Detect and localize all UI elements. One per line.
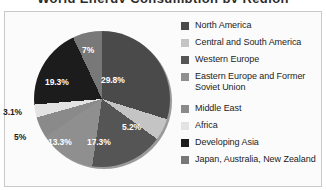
chart-title-clipped: World Energy Consumption by Region [0,0,326,3]
legend-swatch-icon [181,105,189,113]
legend-item-africa: Africa [181,120,326,131]
pie-chart-figure: World Energy Consumption by Region 29.8%… [0,0,326,190]
legend-swatch-icon [181,139,189,147]
slice-label-middle-east: 5% [14,132,26,142]
legend-item-western-europe: Western Europe [181,54,326,65]
legend-label: Africa [195,120,218,131]
legend-label: North America [195,20,251,31]
legend-label: Western Europe [195,54,259,65]
slice-label-developing-asia: 19.3% [45,77,69,87]
slice-label-japan-australia-nz: 7% [82,45,94,55]
legend-item-central-and-south-america: Central and South America [181,37,326,48]
pie-plot-area: 29.8% 5.2% 17.3% 13.3% 5% 3.1% 19.3% 7% [5,12,183,188]
slice-label-north-america: 29.8% [101,75,125,85]
legend-label: Developing Asia [195,137,259,148]
legend-label: Eastern Europe and Former Soviet Union [195,71,323,92]
legend-label: Central and South America [195,37,301,48]
legend-item-japan-australia-new-zealand: Japan, Australia, New Zealand [181,154,326,165]
legend-label: Japan, Australia, New Zealand [195,154,316,165]
slice-label-central-south-america: 5.2% [122,122,141,132]
legend-item-eastern-europe-and-former-soviet-union: Eastern Europe and Former Soviet Union [181,71,326,92]
legend-item-middle-east: Middle East [181,103,326,114]
legend-swatch-icon [181,73,189,81]
legend-item-north-america: North America [181,20,326,31]
chart-frame: 29.8% 5.2% 17.3% 13.3% 5% 3.1% 19.3% 7% … [4,11,322,187]
legend-swatch-icon [181,156,189,164]
slice-label-africa: 3.1% [3,107,22,117]
legend-item-developing-asia: Developing Asia [181,137,326,148]
chart-legend: North America Central and South America … [181,20,326,171]
legend-swatch-icon [181,39,189,47]
slice-label-western-europe: 17.3% [87,137,111,147]
slice-label-eastern-europe: 13.3% [48,137,72,147]
legend-label: Middle East [195,103,241,114]
legend-swatch-icon [181,56,189,64]
legend-swatch-icon [181,122,189,130]
legend-swatch-icon [181,22,189,30]
